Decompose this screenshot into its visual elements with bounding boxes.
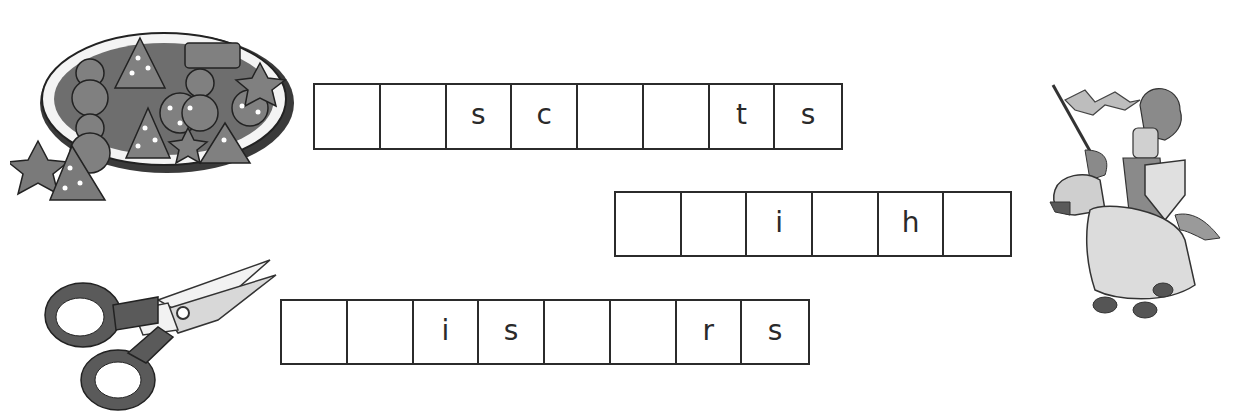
letter-box[interactable] [381,85,447,148]
letter-box[interactable]: t [710,85,776,148]
letter-box[interactable] [578,85,644,148]
knight-on-horse-icon [1045,80,1225,325]
word-grid-knight: i h [614,191,1012,257]
letter-box[interactable] [545,301,611,363]
scissors-icon [38,255,278,415]
biscuits-plate-icon [10,28,295,213]
letter-box[interactable]: h [879,193,945,255]
letter-box[interactable] [944,193,1010,255]
letter-box[interactable]: r [677,301,743,363]
letter-box[interactable]: s [447,85,513,148]
letter-box[interactable]: i [747,193,813,255]
letter-box[interactable] [616,193,682,255]
word-grid-biscuits: s c t s [313,83,843,150]
letter-box[interactable] [611,301,677,363]
letter-box[interactable]: i [414,301,480,363]
letter-box[interactable]: s [742,301,808,363]
word-grid-scissors: i s r s [280,299,810,365]
letter-box[interactable]: s [479,301,545,363]
letter-box[interactable]: c [512,85,578,148]
letter-box[interactable] [348,301,414,363]
letter-box[interactable] [682,193,748,255]
letter-box[interactable] [644,85,710,148]
letter-box[interactable] [315,85,381,148]
letter-box[interactable] [282,301,348,363]
letter-box[interactable]: s [775,85,841,148]
letter-box[interactable] [813,193,879,255]
